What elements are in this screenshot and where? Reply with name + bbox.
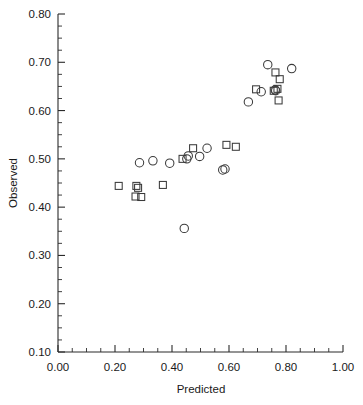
y-tick-label: 0.70 [29, 56, 51, 68]
data-point-circle [257, 88, 265, 96]
data-point-square [232, 143, 239, 150]
y-tick-label: 0.20 [29, 298, 51, 310]
data-point-circle [203, 144, 211, 152]
data-point-square [253, 86, 260, 93]
y-tick-label: 0.10 [29, 346, 51, 358]
y-tick-label: 0.30 [29, 249, 51, 261]
data-markers-group [115, 60, 296, 232]
y-tick-label: 0.50 [29, 153, 51, 165]
y-tick-labels: 0.100.200.300.400.500.600.700.80 [29, 8, 51, 358]
data-point-square [272, 69, 279, 76]
data-point-square [135, 184, 142, 191]
x-tick-label: 0.80 [275, 361, 297, 373]
data-point-circle [288, 64, 296, 72]
x-tick-labels: 0.000.200.400.600.801.00 [47, 361, 354, 373]
data-point-square [115, 182, 122, 189]
data-point-square [223, 141, 230, 148]
ticks-group [58, 14, 343, 352]
scatter-plot-figure: 0.000.200.400.600.801.00 0.100.200.300.4… [0, 0, 363, 405]
x-tick-label: 0.60 [218, 361, 240, 373]
x-tick-label: 0.20 [104, 361, 126, 373]
y-axis-title: Observed [7, 158, 19, 208]
data-point-circle [166, 159, 174, 167]
data-point-square [133, 182, 140, 189]
x-tick-label: 1.00 [332, 361, 354, 373]
y-tick-label: 0.60 [29, 105, 51, 117]
data-point-circle [195, 152, 203, 160]
data-point-circle [149, 157, 157, 165]
data-point-circle [184, 152, 192, 160]
data-point-square [275, 97, 282, 104]
chart-canvas: 0.000.200.400.600.801.00 0.100.200.300.4… [0, 0, 363, 405]
data-point-square [159, 181, 166, 188]
data-point-square [190, 145, 197, 152]
y-tick-label: 0.80 [29, 8, 51, 20]
y-tick-label: 0.40 [29, 201, 51, 213]
data-point-circle [135, 159, 143, 167]
data-point-circle [264, 60, 272, 68]
x-tick-label: 0.40 [161, 361, 183, 373]
x-axis-title: Predicted [177, 383, 226, 395]
data-point-circle [180, 224, 188, 232]
x-tick-label: 0.00 [47, 361, 69, 373]
data-point-circle [244, 98, 252, 106]
axes-group [58, 14, 343, 352]
data-point-square [276, 76, 283, 83]
